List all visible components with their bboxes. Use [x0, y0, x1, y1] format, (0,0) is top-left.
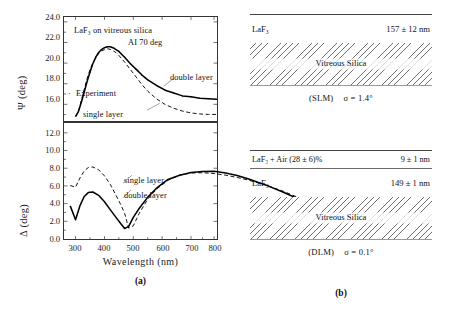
- dlm-top-layer-thickness: 9 ± 1 nm: [401, 155, 430, 164]
- psi-tick-3: 18.0: [26, 73, 60, 83]
- delta-tick-2: 8.0: [26, 163, 60, 173]
- delta-tick-3: 6.0: [26, 181, 60, 191]
- delta-tick-1: 10.0: [26, 145, 60, 155]
- dlm-substrate-label: Vitreous Silica: [250, 212, 432, 223]
- slm-substrate-hatch: Vitreous Silica: [250, 43, 432, 86]
- x-tick-5: 800: [200, 243, 230, 253]
- dlm-model-diagram: LaF₃ + Air (28 ± 6)% 9 ± 1 nm LaF₃ 149 ±…: [250, 150, 432, 257]
- annotation-psi-double-layer: double layer: [170, 73, 213, 82]
- annotation-experiment: Experiment: [76, 89, 116, 98]
- dlm-top-layer-row: LaF₃ + Air (28 ± 6)% 9 ± 1 nm: [250, 151, 432, 168]
- slm-model-caption: (SLM)σ = 1.4°: [250, 93, 432, 103]
- delta-tick-5: 2.0: [26, 216, 60, 226]
- slm-roughness: σ = 1.4°: [343, 93, 373, 103]
- panel-b-caption: (b): [250, 288, 432, 298]
- slm-substrate-label: Vitreous Silica: [250, 58, 432, 69]
- delta-tick-6: 0.0: [26, 234, 60, 244]
- x-tick-1: 400: [89, 243, 119, 253]
- psi-tick-4: 16.0: [26, 94, 60, 104]
- dlm-roughness: σ = 0.1°: [344, 247, 374, 257]
- plot-panel-a: Ψ (deg) Δ (deg) 24.0 22.0 20.0 18.0 16.0…: [0, 0, 232, 309]
- x-tick-2: 500: [118, 243, 148, 253]
- annotation-sample: LaF₃ on vitreous silica: [74, 26, 152, 35]
- dlm-model-caption: (DLM)σ = 0.1°: [250, 247, 432, 257]
- panel-a-caption: (a): [63, 276, 218, 286]
- dlm-substrate-hatch: Vitreous Silica: [250, 197, 432, 240]
- slm-top-layer-material: LaF₃: [252, 24, 269, 34]
- slm-model-diagram: LaF₃ 157 ± 12 nm Vitreous Silica (SLM)σ …: [250, 14, 432, 103]
- delta-tick-4: 4.0: [26, 198, 60, 208]
- annotation-delta-single-layer: single layer: [124, 176, 164, 185]
- slm-model-name: (SLM): [309, 93, 333, 103]
- psi-tick-1: 22.0: [26, 32, 60, 42]
- delta-tick-0: 12.0: [26, 128, 60, 138]
- experiment-point-marker: ·: [68, 89, 71, 98]
- dlm-mid-layer-thickness: 149 ± 1 nm: [391, 178, 430, 188]
- dlm-top-layer-material: LaF₃ + Air (28 ± 6)%: [252, 155, 322, 164]
- psi-tick-2: 20.0: [26, 53, 60, 63]
- x-tick-0: 300: [60, 243, 90, 253]
- annotation-delta-double-layer: double layer: [124, 191, 167, 200]
- figure-root: Ψ (deg) Δ (deg) 24.0 22.0 20.0 18.0 16.0…: [0, 0, 450, 309]
- dlm-model-name: (DLM): [308, 247, 334, 257]
- x-axis-title: Wavelength (nm): [63, 256, 218, 267]
- slm-top-layer-row: LaF₃ 157 ± 12 nm: [250, 15, 432, 43]
- dlm-mid-layer-material: LaF₃: [252, 178, 269, 188]
- diagram-panel-b: LaF₃ 157 ± 12 nm Vitreous Silica (SLM)σ …: [232, 0, 450, 309]
- annotation-angle: AI 70 deg: [128, 38, 162, 47]
- psi-tick-0: 24.0: [26, 12, 60, 22]
- x-tick-3: 600: [148, 243, 178, 253]
- dlm-mid-layer-row: LaF₃ 149 ± 1 nm: [250, 169, 432, 197]
- slm-top-layer-thickness: 157 ± 12 nm: [386, 24, 430, 34]
- annotation-psi-single-layer: single layer: [83, 110, 123, 119]
